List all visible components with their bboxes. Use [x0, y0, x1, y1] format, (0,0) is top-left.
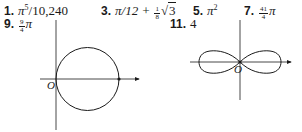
origin-label: O: [47, 79, 55, 91]
point-marker: [117, 77, 120, 80]
circle-figure: [40, 20, 139, 130]
origin-label: O: [234, 63, 242, 75]
figures-canvas: [0, 0, 302, 132]
lemniscate-figure: [190, 20, 291, 100]
